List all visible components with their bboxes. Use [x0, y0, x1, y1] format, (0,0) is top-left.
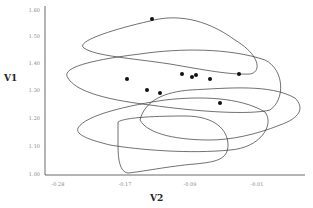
svg-text:1.10: 1.10 — [29, 143, 40, 149]
data-point — [218, 101, 222, 105]
contour-5 — [118, 116, 228, 173]
svg-text:1.60: 1.60 — [29, 7, 40, 13]
x-axis-label: V2 — [149, 193, 163, 203]
contour-1 — [83, 18, 258, 74]
svg-text:1.00: 1.00 — [29, 171, 40, 177]
contour-4 — [140, 88, 300, 140]
svg-text:-0.01: -0.01 — [251, 181, 264, 187]
svg-text:1.50: 1.50 — [29, 33, 40, 39]
data-point — [237, 72, 241, 76]
svg-text:-0.28: -0.28 — [52, 181, 65, 187]
data-points — [125, 17, 241, 105]
data-point — [145, 88, 149, 92]
data-point — [190, 75, 194, 79]
data-point — [180, 72, 184, 76]
svg-text:1.40: 1.40 — [29, 60, 40, 66]
svg-text:-0.17: -0.17 — [119, 181, 132, 187]
data-point — [150, 17, 154, 21]
data-point — [208, 77, 212, 81]
contour-2 — [67, 50, 281, 112]
svg-text:1.30: 1.30 — [29, 87, 40, 93]
contour-regions — [67, 18, 300, 173]
x-tick-labels: -0.28 -0.17 -0.09 -0.01 — [52, 181, 264, 187]
scatter-chart: 1.00 1.10 1.20 1.30 1.40 1.50 1.60 -0.28… — [0, 0, 313, 208]
contour-3 — [78, 98, 268, 152]
svg-text:-0.09: -0.09 — [184, 181, 197, 187]
y-tick-labels: 1.00 1.10 1.20 1.30 1.40 1.50 1.60 — [29, 7, 40, 177]
data-point — [158, 91, 162, 95]
svg-text:1.20: 1.20 — [29, 115, 40, 121]
y-axis-label: V1 — [3, 73, 17, 83]
data-point — [194, 73, 198, 77]
data-point — [125, 77, 129, 81]
